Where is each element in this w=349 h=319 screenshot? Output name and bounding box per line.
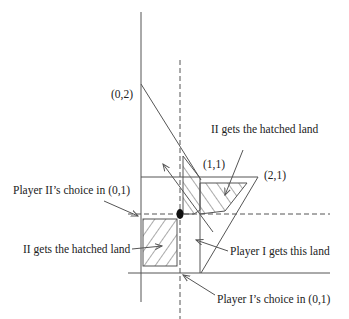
label-point-11: (1,1) (203, 158, 225, 171)
arrow-player-i-land (196, 240, 228, 251)
lower-hatched-box (143, 219, 177, 266)
land-division-diagram: (0,2) (1,1) (2,1) II gets the hatched la… (0, 0, 349, 319)
label-player-i-land: Player I gets this land (230, 245, 330, 258)
label-player-ii-choice: Player II’s choice in (0,1) (13, 184, 130, 197)
label-point-21: (2,1) (264, 169, 286, 182)
label-ii-hatched-top: II gets the hatched land (211, 123, 319, 136)
arrow-player-ii-choice (104, 201, 138, 216)
diagonal-from-02 (141, 84, 201, 180)
choice-point-dot (177, 209, 184, 219)
arrow-player-i-choice (183, 275, 215, 295)
label-ii-hatched-bottom: II gets the hatched land (23, 243, 131, 256)
label-player-i-choice: Player I’s choice in (0,1) (217, 293, 331, 306)
diagram-svg: (0,2) (1,1) (2,1) II gets the hatched la… (0, 0, 349, 319)
upper-right-hatched-region (200, 183, 247, 214)
label-point-02: (0,2) (111, 88, 133, 101)
